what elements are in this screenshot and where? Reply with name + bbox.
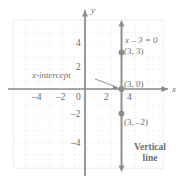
y-axis-label: y [91,6,95,15]
equation-label: x – 3 = 0 [125,36,158,45]
graph-figure: y x –4 –2 0 2 4 4 2 –2 –4 x – 3 = 0 (3, … [0,0,185,181]
x-intercept-label: x-intercept [32,71,71,80]
y-tick-2: 2 [76,63,81,73]
y-tick-minus2: –2 [71,110,81,120]
point-label-3-0: (3, 0) [124,80,144,89]
point-3-minus2 [119,111,125,117]
vertical-word: Vertical [128,142,172,153]
x-tick-minus2: –2 [56,93,66,103]
y-tick-4: 4 [76,39,81,49]
x-tick-4: 4 [127,93,132,103]
point-label-3-minus2: (3, –2) [124,118,148,127]
x-axis-label: x [172,85,176,94]
line-word: line [128,153,172,164]
x-tick-2: 2 [104,93,109,103]
point-label-3-3: (3, 3) [124,47,144,56]
vertical-line-note: Vertical line [128,142,172,164]
y-tick-minus4: –4 [71,139,81,149]
x-tick-zero: 0 [76,93,81,103]
x-tick-minus4: –4 [32,93,42,103]
